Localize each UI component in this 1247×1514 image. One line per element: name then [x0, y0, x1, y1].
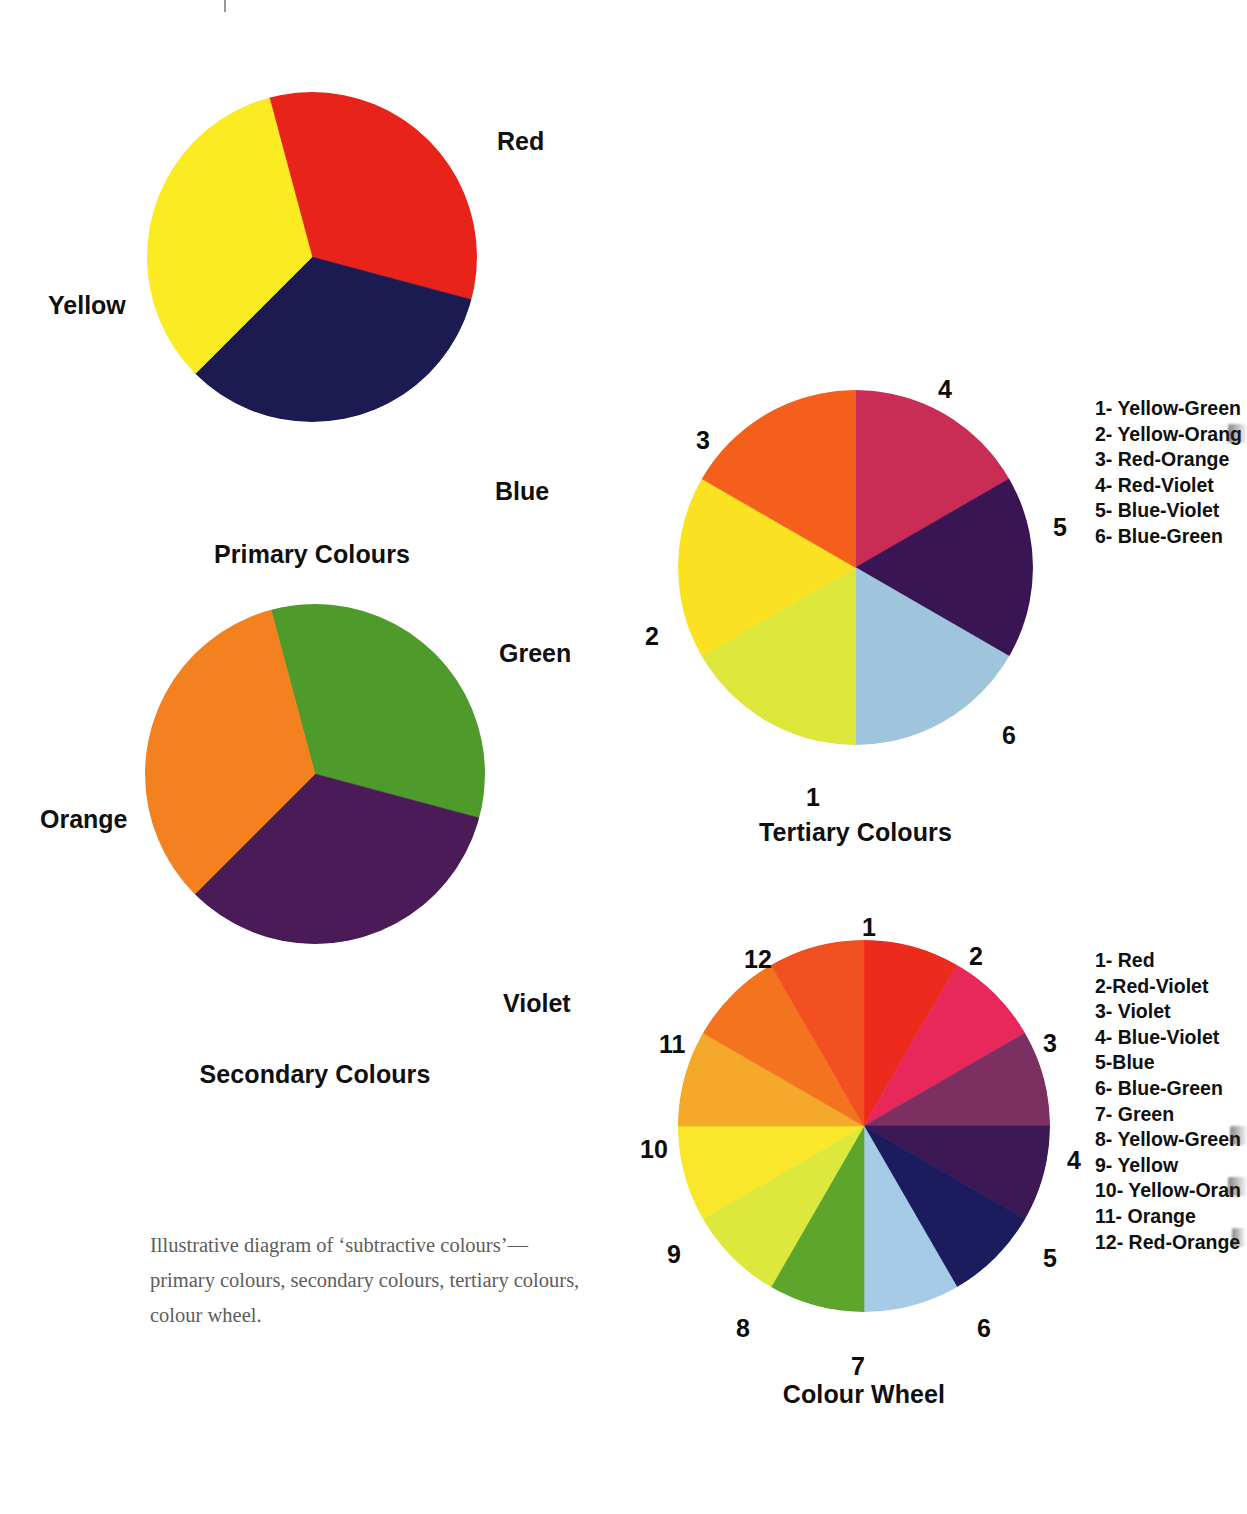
- primary-colours-wheel[interactable]: [147, 92, 477, 422]
- tertiary-legend-item: 5- Blue-Violet: [1095, 498, 1242, 524]
- slice-label-green: Green: [499, 639, 571, 668]
- tertiary-legend-item: 3- Red-Orange: [1095, 447, 1242, 473]
- primary-colours-title: Primary Colours: [147, 540, 477, 569]
- tertiary-colours-title: Tertiary Colours: [678, 818, 1033, 847]
- colour-wheel-legend-item: 7- Green: [1095, 1102, 1241, 1128]
- slice-label-blue: Blue: [495, 477, 549, 506]
- colour-wheel-legend-item: 3- Violet: [1095, 999, 1241, 1025]
- tertiary-number-3: 3: [696, 426, 710, 455]
- colour-wheel-block: Colour Wheel: [678, 940, 1050, 1312]
- secondary-colours-title: Secondary Colours: [145, 1060, 485, 1089]
- tertiary-legend-item: 4- Red-Violet: [1095, 473, 1242, 499]
- secondary-colours-wheel[interactable]: [145, 604, 485, 944]
- page-header-rule: [224, 0, 226, 12]
- colour-wheel-number-10: 10: [640, 1135, 668, 1164]
- tertiary-number-2: 2: [645, 622, 659, 651]
- colour-wheel-legend-item: 11- Orange: [1095, 1204, 1241, 1230]
- colour-wheel-legend-item: 9- Yellow: [1095, 1153, 1241, 1179]
- tertiary-number-4: 4: [938, 375, 952, 404]
- colour-wheel-legend-item: 6- Blue-Green: [1095, 1076, 1241, 1102]
- tertiary-colours-svg: [678, 390, 1033, 745]
- scan-smudge-wheel-a: [1230, 1126, 1247, 1145]
- colour-wheel-number-5: 5: [1043, 1244, 1057, 1273]
- secondary-colours-block: Secondary Colours: [145, 604, 485, 944]
- primary-colours-block: Primary Colours: [147, 92, 477, 422]
- colour-wheel-svg: [678, 940, 1050, 1312]
- tertiary-number-6: 6: [1002, 721, 1016, 750]
- colour-wheel-legend-item: 12- Red-Orange: [1095, 1230, 1241, 1256]
- colour-wheel-number-4: 4: [1067, 1146, 1081, 1175]
- colour-wheel-legend-item: 4- Blue-Violet: [1095, 1025, 1241, 1051]
- colour-wheel-number-9: 9: [667, 1240, 681, 1269]
- colour-wheel-legend-item: 8- Yellow-Green: [1095, 1127, 1241, 1153]
- tertiary-colours-wheel[interactable]: [678, 390, 1033, 745]
- colour-wheel-number-6: 6: [977, 1314, 991, 1343]
- colour-wheel-legend-item: 1- Red: [1095, 948, 1241, 974]
- slice-label-violet: Violet: [503, 989, 571, 1018]
- colour-wheel[interactable]: [678, 940, 1050, 1312]
- colour-wheel-legend-item: 10- Yellow-Oran: [1095, 1178, 1241, 1204]
- colour-wheel-number-8: 8: [736, 1314, 750, 1343]
- scan-smudge-wheel-b: [1228, 1177, 1247, 1196]
- secondary-colours-svg: [145, 604, 485, 944]
- scan-smudge-wheel-c: [1232, 1228, 1245, 1247]
- tertiary-legend-item: 1- Yellow-Green: [1095, 396, 1242, 422]
- figure-caption: Illustrative diagram of ‘subtractive col…: [150, 1228, 580, 1333]
- colour-wheel-number-3: 3: [1043, 1029, 1057, 1058]
- tertiary-colours-legend: 1- Yellow-Green2- Yellow-Orang3- Red-Ora…: [1095, 396, 1242, 550]
- tertiary-colours-block: Tertiary Colours: [678, 390, 1033, 745]
- slice-label-yellow: Yellow: [48, 291, 126, 320]
- tertiary-number-1: 1: [806, 783, 820, 812]
- colour-wheel-number-11: 11: [659, 1030, 685, 1059]
- slice-label-orange: Orange: [40, 805, 128, 834]
- tertiary-number-5: 5: [1053, 513, 1067, 542]
- colour-wheel-number-12: 12: [744, 945, 772, 974]
- colour-wheel-title: Colour Wheel: [678, 1380, 1050, 1409]
- colour-wheel-legend-item: 2-Red-Violet: [1095, 974, 1241, 1000]
- tertiary-legend-item: 2- Yellow-Orang: [1095, 422, 1242, 448]
- colour-wheel-legend: 1- Red2-Red-Violet3- Violet4- Blue-Viole…: [1095, 948, 1241, 1255]
- colour-wheel-legend-item: 5-Blue: [1095, 1050, 1241, 1076]
- scan-smudge-tertiary: [1228, 424, 1247, 443]
- slice-label-red: Red: [497, 127, 544, 156]
- colour-wheel-number-2: 2: [969, 942, 983, 971]
- colour-wheel-number-7: 7: [851, 1352, 865, 1381]
- primary-colours-svg: [147, 92, 477, 422]
- tertiary-legend-item: 6- Blue-Green: [1095, 524, 1242, 550]
- colour-wheel-number-1: 1: [862, 913, 876, 942]
